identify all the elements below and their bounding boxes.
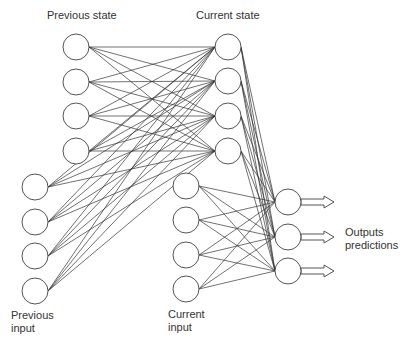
outputs-node-2 — [275, 224, 301, 250]
previous-input-node-2 — [22, 209, 48, 235]
label-current-state: Current state — [196, 9, 260, 22]
connection-edge — [199, 202, 275, 255]
connection-edge — [241, 81, 275, 202]
label-current-input: Current input — [168, 308, 205, 334]
previous-state-node-2 — [63, 69, 89, 95]
outputs-node-1 — [275, 189, 301, 215]
output-arrow-icon-1 — [301, 196, 334, 208]
current-input-node-4 — [173, 276, 199, 302]
output-arrows — [301, 196, 334, 277]
connection-edge — [241, 151, 275, 271]
previous-state-node-3 — [63, 103, 89, 129]
label-current-input-line2: input — [168, 321, 205, 334]
previous-input-node-1 — [22, 174, 48, 200]
label-previous-input-line1: Previous — [11, 309, 54, 322]
connection-edge — [199, 271, 275, 289]
label-previous-input-line2: input — [11, 322, 54, 335]
label-outputs-line1: Outputs — [345, 226, 398, 239]
label-previous-input: Previous input — [11, 309, 54, 335]
current-state-node-2 — [215, 68, 241, 94]
current-input-node-2 — [173, 207, 199, 233]
current-input-node-3 — [173, 242, 199, 268]
outputs-node-3 — [275, 258, 301, 284]
previous-input-node-4 — [22, 278, 48, 304]
connection-edge — [199, 202, 275, 289]
previous-state-node-1 — [63, 34, 89, 60]
current-state-node-3 — [215, 103, 241, 129]
current-state-node-4 — [215, 138, 241, 164]
label-outputs-line2: predictions — [345, 239, 398, 252]
previous-input-node-3 — [22, 243, 48, 269]
output-arrow-icon-3 — [301, 265, 334, 277]
neural-network-diagram — [0, 0, 412, 350]
label-outputs: Outputs predictions — [345, 226, 398, 252]
connection-edge — [199, 202, 275, 220]
label-previous-state: Previous state — [47, 9, 117, 22]
output-arrow-icon-2 — [301, 231, 334, 243]
previous-state-node-4 — [63, 138, 89, 164]
current-state-node-1 — [215, 34, 241, 60]
label-current-input-line1: Current — [168, 308, 205, 321]
network-nodes — [22, 34, 301, 304]
connection-edge — [241, 47, 275, 202]
current-input-node-1 — [173, 173, 199, 199]
